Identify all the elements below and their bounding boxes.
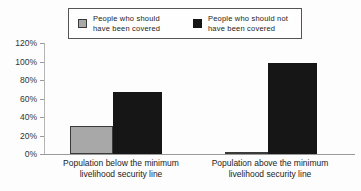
legend-item-not-covered: People who should not have been covered xyxy=(193,14,292,34)
y-tick-mark xyxy=(40,136,44,137)
y-tick-label: 120% xyxy=(0,38,37,48)
y-tick-mark xyxy=(40,80,44,81)
legend-label-covered: People who should have been covered xyxy=(93,14,177,34)
legend-label-not-covered: People who should not have been covered xyxy=(208,14,292,34)
y-tick-mark xyxy=(40,43,44,44)
y-tick-label: 20% xyxy=(0,131,37,141)
y-tick-mark xyxy=(40,99,44,100)
x-axis-line xyxy=(44,154,355,155)
legend-swatch-not-covered-icon xyxy=(193,19,202,28)
y-tick-label: 80% xyxy=(0,75,37,85)
plot-area xyxy=(44,43,355,154)
legend-item-covered: People who should have been covered xyxy=(78,14,177,34)
bar-series0-group1 xyxy=(225,152,268,154)
bar-series0-group0 xyxy=(70,126,113,154)
bar-series1-group0 xyxy=(113,92,162,154)
y-tick-mark xyxy=(40,154,44,155)
chart-legend: People who should have been covered Peop… xyxy=(68,8,302,39)
category-label-below-line: Population below the minimum livelihood … xyxy=(51,158,191,179)
bar-series1-group1 xyxy=(268,63,317,154)
y-tick-mark xyxy=(40,62,44,63)
y-tick-label: 60% xyxy=(0,94,37,104)
y-tick-label: 100% xyxy=(0,57,37,67)
y-tick-label: 40% xyxy=(0,112,37,122)
bar-chart: People who should have been covered Peop… xyxy=(0,0,361,191)
y-tick-label: 0% xyxy=(0,149,37,159)
y-tick-mark xyxy=(40,117,44,118)
category-label-above-line: Population above the minimum livelihood … xyxy=(200,158,340,179)
legend-swatch-covered-icon xyxy=(78,19,87,28)
